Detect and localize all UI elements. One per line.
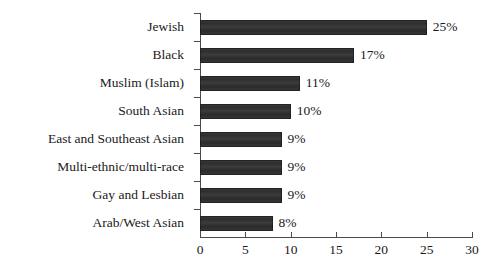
category-axis-labels: Jewish Black Muslim (Islam) South Asian … [0, 13, 190, 237]
category-label: East and Southeast Asian [0, 125, 190, 153]
bar [200, 48, 354, 63]
bar [200, 216, 273, 231]
bar-value-label: 25% [433, 20, 458, 34]
bar-row: 9% [200, 125, 472, 153]
x-axis-tick [381, 232, 382, 238]
bar [200, 76, 300, 91]
x-axis-tick [336, 232, 337, 238]
x-axis-tick-label: 0 [197, 243, 204, 257]
bar-value-label: 10% [297, 104, 322, 118]
category-label: Jewish [0, 13, 190, 41]
x-axis-tick-label: 10 [284, 243, 298, 257]
bar-chart: Jewish Black Muslim (Islam) South Asian … [0, 0, 502, 267]
bar [200, 104, 291, 119]
x-axis-tick-label: 25 [420, 243, 434, 257]
bar-row: 17% [200, 41, 472, 69]
bar-series: 25% 17% 11% 10% 9% 9% [200, 13, 472, 237]
category-label: Muslim (Islam) [0, 69, 190, 97]
x-axis-tick-label: 20 [375, 243, 389, 257]
x-axis-tick [472, 232, 473, 238]
x-axis-tick [291, 232, 292, 238]
x-axis-tick-label: 5 [242, 243, 249, 257]
bar-value-label: 9% [288, 132, 306, 146]
bar-value-label: 9% [288, 160, 306, 174]
x-axis-tick-label: 15 [329, 243, 343, 257]
bar [200, 188, 282, 203]
category-label: Arab/West Asian [0, 209, 190, 237]
category-label: South Asian [0, 97, 190, 125]
bar [200, 160, 282, 175]
plot-area: 25% 17% 11% 10% 9% 9% [200, 13, 472, 237]
bar-row: 10% [200, 97, 472, 125]
bar-row: 9% [200, 153, 472, 181]
bar [200, 20, 427, 35]
bar-value-label: 17% [360, 48, 385, 62]
x-axis-tick-label: 30 [465, 243, 479, 257]
bar-row: 11% [200, 69, 472, 97]
x-axis-tick [427, 232, 428, 238]
x-axis-tick [200, 232, 201, 238]
bar-value-label: 9% [288, 188, 306, 202]
category-label: Black [0, 41, 190, 69]
category-label: Gay and Lesbian [0, 181, 190, 209]
category-label: Multi-ethnic/multi-race [0, 153, 190, 181]
bar-row: 9% [200, 181, 472, 209]
bar [200, 132, 282, 147]
bar-row: 25% [200, 13, 472, 41]
bar-value-label: 11% [306, 76, 330, 90]
bar-value-label: 8% [279, 216, 297, 230]
x-axis-tick [245, 232, 246, 238]
